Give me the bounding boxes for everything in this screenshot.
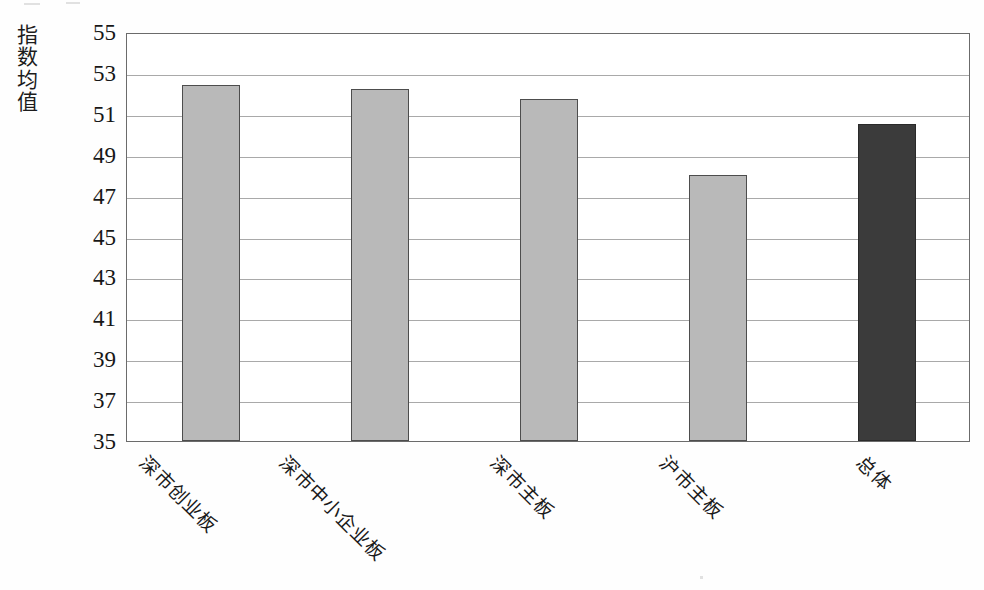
y-axis-tick-labels: 5553514947454341393735: [58, 0, 116, 590]
plot-area: [126, 33, 970, 442]
bar[interactable]: [858, 124, 916, 441]
y-tick-label: 47: [70, 184, 116, 210]
x-tick-label: 深市创业板: [135, 448, 225, 538]
x-tick-label: 总体: [852, 448, 899, 495]
y-tick-label: 43: [70, 265, 116, 291]
y-axis-title-char: 指: [10, 24, 44, 46]
y-tick-label: 41: [70, 306, 116, 332]
bar-series: [127, 34, 969, 441]
y-tick-label: 49: [70, 143, 116, 169]
x-tick-label: 沪市主板: [655, 448, 731, 524]
scan-artifact: [66, 2, 80, 4]
scan-artifact: [24, 3, 40, 5]
y-tick-label: 39: [70, 347, 116, 373]
y-tick-label: 45: [70, 225, 116, 251]
x-tick-label: 深市主板: [486, 448, 562, 524]
x-axis-category-labels: 深市创业板深市中小企业板深市主板沪市主板总体: [126, 442, 970, 590]
y-axis-title-char: 值: [10, 91, 44, 113]
x-tick-label: 深市中小企业板: [275, 448, 393, 566]
bar-chart-figure: 指 数 均 值 5553514947454341393735 深市创业板深市中小…: [0, 0, 984, 590]
bar[interactable]: [351, 89, 409, 441]
y-tick-label: 53: [70, 61, 116, 87]
y-axis-title-char: 均: [10, 69, 44, 91]
y-tick-label: 55: [70, 20, 116, 46]
bar[interactable]: [689, 175, 747, 441]
y-tick-label: 37: [70, 388, 116, 414]
y-tick-label: 35: [70, 429, 116, 455]
bar[interactable]: [182, 85, 240, 441]
y-tick-label: 51: [70, 102, 116, 128]
y-axis-title: 指 数 均 值: [10, 24, 44, 113]
bar[interactable]: [520, 99, 578, 441]
y-axis-title-char: 数: [10, 46, 44, 68]
scan-artifact: [700, 576, 703, 579]
